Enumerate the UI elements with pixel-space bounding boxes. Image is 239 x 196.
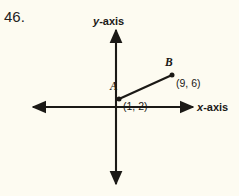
x-axis-label: x-axis [197,101,228,113]
point-B-label: B [165,56,173,68]
point-B-coordinates: (9, 6) [176,77,201,89]
point-A-coordinates: (1, 2) [123,100,148,112]
axes-and-segment-graphic [0,0,239,196]
y-axis-label-suffix: -axis [99,15,124,27]
segment-AB [119,75,172,99]
point-B-dot [170,73,175,78]
point-A-label: A [110,80,118,92]
coordinate-plane-figure: 46. y-axis x-axis A (1, 2) B (9, 6) [0,0,239,196]
y-axis-label: y-axis [93,15,124,27]
x-axis-label-suffix: -axis [203,101,228,113]
point-A-dot [117,97,122,102]
